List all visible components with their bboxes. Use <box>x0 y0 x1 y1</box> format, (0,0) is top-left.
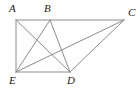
vertex-label-a: A <box>9 3 16 14</box>
segment-B-D <box>50 20 70 72</box>
geometry-figure: A B C D E <box>0 0 140 94</box>
segment-A-D <box>16 20 70 72</box>
segment-E-C <box>16 20 124 72</box>
vertex-label-e: E <box>9 75 16 86</box>
segment-D-C <box>70 20 124 72</box>
vertex-label-d: D <box>67 75 75 86</box>
vertex-label-b: B <box>44 3 51 14</box>
edge-group <box>16 20 124 72</box>
vertex-label-c: C <box>128 7 135 18</box>
